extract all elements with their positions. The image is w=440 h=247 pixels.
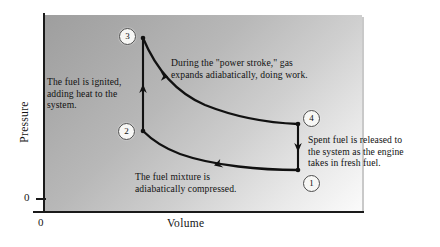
vertex-dot-4 [296,122,301,127]
vertex-dot-2 [141,129,146,134]
annotation-exhaust-intake: Spent fuel is released to the system as … [308,134,436,169]
vertex-dot-3 [141,36,146,41]
state-marker-2: 2 [118,123,135,140]
vertex-dot-1 [296,168,301,173]
path-1-to-2 [143,131,298,170]
annotation-compression: The fuel mixture is adiabatically compre… [135,171,275,194]
cycle-paths [0,0,440,247]
annotation-power-stroke: During the "power stroke," gas expands a… [171,57,341,80]
annotation-ignition: The fuel is ignited, adding heat to the … [47,76,139,111]
state-marker-3: 3 [119,28,136,45]
path-3-to-4 [143,38,298,124]
pv-diagram-figure: Pressure Volume 0 0 During the "power st… [0,0,440,247]
state-marker-1: 1 [303,175,320,192]
state-marker-4: 4 [303,110,320,127]
